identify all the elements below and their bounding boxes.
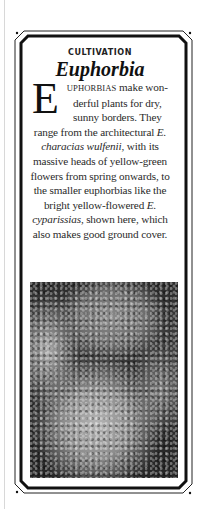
- section-kicker: CULTIVATION: [37, 46, 163, 58]
- body-paragraph: EUPHORBIAS make won­derful plants for dr…: [26, 80, 174, 242]
- corner-dot-icon: [16, 491, 18, 493]
- cultivation-panel: CULTIVATION Euphorbia EUPHORBIAS make wo…: [26, 42, 174, 242]
- corner-dot-icon: [189, 492, 191, 494]
- corner-dot-icon: [189, 32, 191, 34]
- euphorbia-photo: [30, 282, 178, 478]
- lead-smallcaps: UPHORBIAS: [67, 83, 117, 93]
- corner-dot-icon: [16, 32, 18, 34]
- photo-texture: [30, 282, 178, 478]
- drop-cap: E: [32, 82, 59, 112]
